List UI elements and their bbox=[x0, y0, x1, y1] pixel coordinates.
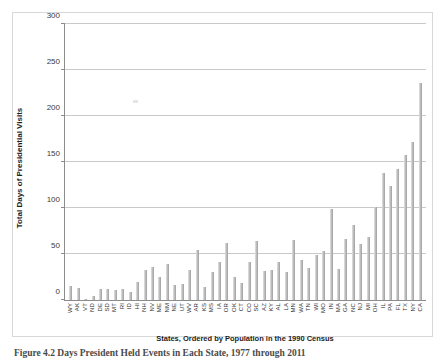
x-axis-tick-label-slot: CO bbox=[245, 302, 252, 335]
bar-slot bbox=[327, 24, 334, 300]
x-axis-title: States, Ordered by Population in the 199… bbox=[64, 334, 426, 343]
bar-slot bbox=[320, 24, 327, 300]
x-axis-tick-label: AZ bbox=[261, 303, 267, 311]
bar bbox=[144, 270, 147, 300]
bar-slot bbox=[350, 24, 357, 300]
bar-slot bbox=[342, 24, 349, 300]
x-axis-tick-label: ND bbox=[89, 303, 95, 312]
bar bbox=[255, 241, 258, 300]
y-axis-tick-label: 300 bbox=[47, 11, 60, 20]
x-axis-tick-label: MT bbox=[111, 303, 117, 312]
bar-slot bbox=[417, 24, 424, 300]
bar-slot bbox=[335, 24, 342, 300]
bar-slot bbox=[394, 24, 401, 300]
bar bbox=[69, 286, 72, 300]
bar bbox=[396, 169, 399, 300]
x-axis-tick-label: MO bbox=[320, 303, 326, 313]
bar bbox=[173, 285, 176, 300]
bar bbox=[277, 262, 280, 300]
y-axis-tick-label: 100 bbox=[47, 195, 60, 204]
x-axis-tick-label: WI bbox=[313, 303, 319, 311]
x-axis-tick-label: WA bbox=[298, 303, 304, 313]
x-axis-tick-label-slot: KS bbox=[200, 302, 207, 335]
bar-slot bbox=[298, 24, 305, 300]
x-axis-tick-label: CA bbox=[417, 303, 423, 312]
x-axis-tick-label-slot: AR bbox=[193, 302, 200, 335]
bar bbox=[330, 209, 333, 300]
x-axis-tick-label-slot: TN bbox=[305, 302, 312, 335]
bar bbox=[322, 251, 325, 300]
x-axis-tick-label-slot: AZ bbox=[260, 302, 267, 335]
bar-slot bbox=[89, 24, 96, 300]
bar-slot bbox=[141, 24, 148, 300]
x-axis-tick-label-slot: MN bbox=[290, 302, 297, 335]
x-axis-tick-label: DE bbox=[97, 303, 103, 312]
bar-slot bbox=[112, 24, 119, 300]
bar-series bbox=[65, 24, 426, 300]
x-axis-tick-label-slot: NM bbox=[163, 302, 170, 335]
bar bbox=[77, 288, 80, 300]
bar bbox=[411, 142, 414, 300]
bar bbox=[166, 264, 169, 300]
bar bbox=[129, 292, 132, 300]
x-axis-tick-label-slot: NH bbox=[141, 302, 148, 335]
x-axis-tick-label-slot: MA bbox=[334, 302, 341, 335]
bar-slot bbox=[357, 24, 364, 300]
x-axis-tick-label: CT bbox=[238, 303, 244, 311]
y-axis-tick-label: 0 bbox=[56, 287, 60, 296]
x-axis-tick-label-slot: IN bbox=[327, 302, 334, 335]
x-axis-tick-label: IL bbox=[380, 303, 386, 308]
bar bbox=[374, 207, 377, 300]
bar-slot bbox=[231, 24, 238, 300]
x-axis-tick-label: NJ bbox=[357, 303, 363, 311]
bar bbox=[359, 244, 362, 300]
x-axis-tick-label: TN bbox=[305, 303, 311, 311]
x-axis-tick-label-slot: OK bbox=[230, 302, 237, 335]
bar-slot bbox=[97, 24, 104, 300]
bar bbox=[389, 186, 392, 300]
x-axis-tick-label-slot: MI bbox=[364, 302, 371, 335]
bar bbox=[114, 290, 117, 300]
x-axis-tick-label-slot: KY bbox=[267, 302, 274, 335]
x-axis-tick-label: NV bbox=[149, 303, 155, 312]
bar-slot bbox=[74, 24, 81, 300]
x-axis-tick-label-slot: VT bbox=[81, 302, 88, 335]
bar bbox=[225, 243, 228, 300]
x-axis-tick-label: MS bbox=[208, 303, 214, 312]
bar bbox=[84, 299, 87, 300]
bar-slot bbox=[67, 24, 74, 300]
x-axis-tick-label-slot: NJ bbox=[357, 302, 364, 335]
x-axis-tick-label: TX bbox=[402, 303, 408, 311]
bar-slot bbox=[149, 24, 156, 300]
x-axis-tick-label-slot: GA bbox=[342, 302, 349, 335]
plot-area: 050100150200250300 bbox=[64, 24, 426, 301]
x-axis-tick-label: OR bbox=[223, 303, 229, 312]
bar-slot bbox=[223, 24, 230, 300]
x-axis-tick-label-slot: NE bbox=[170, 302, 177, 335]
bar bbox=[248, 262, 251, 300]
bar bbox=[419, 83, 422, 300]
bar-slot bbox=[164, 24, 171, 300]
bar-slot bbox=[193, 24, 200, 300]
bar-slot bbox=[409, 24, 416, 300]
bar-slot bbox=[365, 24, 372, 300]
bar bbox=[404, 155, 407, 300]
x-axis-tick-label: WY bbox=[67, 303, 73, 313]
x-axis-tick-label: NY bbox=[410, 303, 416, 312]
x-axis-tick-label-slot: WA bbox=[297, 302, 304, 335]
x-axis-tick-label-slot: OH bbox=[372, 302, 379, 335]
x-axis-tick-label-slot: SC bbox=[252, 302, 259, 335]
bar-slot bbox=[290, 24, 297, 300]
bar bbox=[121, 289, 124, 300]
x-axis-tick-label-slot: MO bbox=[319, 302, 326, 335]
bar-slot bbox=[179, 24, 186, 300]
bar-slot bbox=[134, 24, 141, 300]
bar bbox=[300, 260, 303, 300]
x-axis-tick-label-slot: CA bbox=[416, 302, 423, 335]
bar bbox=[203, 287, 206, 300]
bar bbox=[181, 284, 184, 300]
x-axis-tick-label-slot: ID bbox=[126, 302, 133, 335]
bar bbox=[344, 239, 347, 300]
x-axis-tick-label-slot: NC bbox=[349, 302, 356, 335]
x-axis-tick-label-slot: NV bbox=[148, 302, 155, 335]
